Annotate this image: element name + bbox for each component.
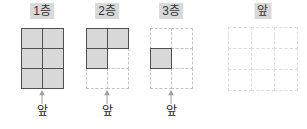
filled-cell (42, 48, 64, 69)
floor-3-label: 3층 (159, 3, 183, 19)
up-arrow-icon (166, 90, 176, 104)
up-arrow-icon (102, 90, 112, 104)
empty-cell (251, 27, 275, 49)
filled-cell (107, 28, 129, 49)
floor-panel-2: 2층 앞 (86, 0, 128, 129)
front-view-label: 앞 (254, 3, 271, 19)
filled-cell (86, 48, 108, 69)
floor-2-label: 2층 (95, 3, 119, 19)
empty-cell (251, 69, 275, 91)
up-arrow-icon (37, 90, 47, 104)
empty-cell (274, 27, 298, 49)
empty-cell (107, 68, 129, 89)
floor-panel-3: 3층 앞 (150, 0, 192, 129)
front-direction-label: 앞 (37, 103, 48, 119)
empty-cell (274, 48, 298, 70)
floor-panel-1: 1층 앞 (21, 0, 63, 129)
filled-cell (21, 48, 43, 69)
filled-cell (21, 68, 43, 89)
floor-1-label: 1층 (30, 3, 54, 19)
empty-cell (274, 69, 298, 91)
front-direction-label: 앞 (166, 103, 177, 119)
filled-cell (42, 68, 64, 89)
empty-cell (150, 68, 172, 89)
filled-cell (21, 28, 43, 49)
filled-cell (150, 48, 172, 69)
empty-cell (228, 48, 252, 70)
floor-3-grid (150, 28, 192, 88)
empty-cell (107, 48, 129, 69)
front-view-answer-grid (228, 27, 297, 90)
front-direction-label: 앞 (102, 103, 113, 119)
empty-cell (228, 27, 252, 49)
front-view-panel: 앞 (228, 0, 297, 129)
empty-cell (228, 69, 252, 91)
floor-2-grid (86, 28, 128, 88)
empty-cell (251, 48, 275, 70)
block-floor-plan-figure: 1층 앞 2층 앞 3층 앞 앞 (0, 0, 307, 129)
empty-cell (171, 48, 193, 69)
filled-cell (42, 28, 64, 49)
floor-1-grid (21, 28, 63, 88)
empty-cell (86, 68, 108, 89)
empty-cell (171, 68, 193, 89)
empty-cell (171, 28, 193, 49)
empty-cell (150, 28, 172, 49)
filled-cell (86, 28, 108, 49)
